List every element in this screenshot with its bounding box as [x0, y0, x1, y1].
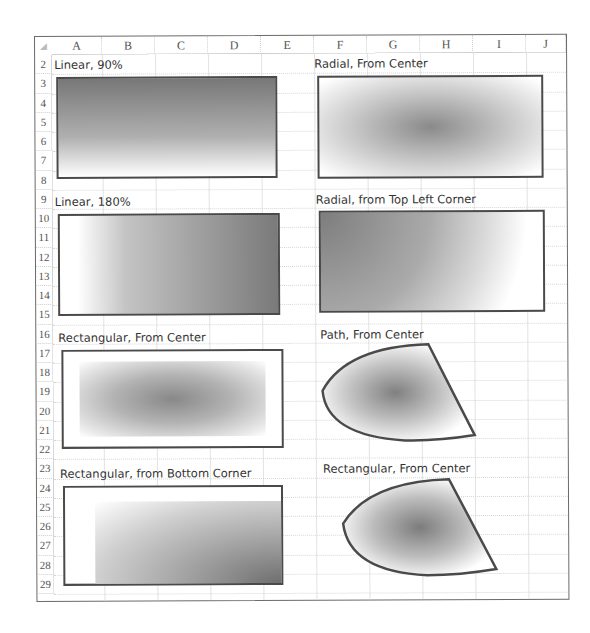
row-header[interactable]: 13 [36, 267, 53, 286]
gradient-fill [79, 361, 265, 437]
column-header-b[interactable]: B [102, 36, 155, 54]
row-header[interactable]: 19 [37, 382, 54, 401]
gridline [54, 457, 568, 460]
shape-radial-center[interactable] [317, 75, 543, 179]
row-header[interactable]: 2 [35, 55, 52, 74]
row-header[interactable]: 14 [36, 286, 53, 305]
row-header[interactable]: 5 [35, 113, 52, 132]
gradient-fill [95, 501, 281, 584]
spreadsheet: ◢ A B C D E F G H I J 234567891011121314… [34, 34, 569, 602]
row-header[interactable]: 22 [37, 440, 54, 459]
row-header[interactable]: 18 [36, 363, 53, 382]
column-header-h[interactable]: H [420, 35, 473, 53]
column-header-d[interactable]: D [208, 36, 261, 54]
shape-rectangular-bottom-corner[interactable] [63, 485, 283, 586]
column-header-a[interactable]: A [52, 37, 102, 55]
row-header[interactable]: 4 [35, 93, 52, 112]
row-header[interactable]: 15 [36, 305, 53, 324]
row-header[interactable]: 9 [36, 190, 53, 209]
shape-label: Radial, From Center [314, 56, 428, 70]
column-header-f[interactable]: F [314, 36, 367, 54]
row-header[interactable]: 8 [36, 170, 53, 189]
shape-path-from-center[interactable] [316, 340, 486, 451]
shape-rectangular-center[interactable] [61, 349, 283, 449]
row-header[interactable]: 16 [36, 324, 53, 343]
row-header[interactable]: 25 [37, 498, 54, 517]
column-header-j[interactable]: J [526, 35, 566, 53]
column-header-c[interactable]: C [155, 36, 208, 54]
shape-label: Rectangular, From Center [58, 330, 206, 345]
gridline [54, 592, 568, 595]
row-header[interactable]: 28 [37, 555, 54, 574]
row-header[interactable]: 29 [37, 575, 54, 594]
row-header[interactable]: 23 [37, 459, 54, 478]
row-header[interactable]: 26 [37, 517, 54, 536]
row-header[interactable]: 12 [36, 247, 53, 266]
row-header[interactable]: 3 [35, 74, 52, 93]
shape-linear-90[interactable] [56, 76, 277, 179]
shape-label: Linear, 90% [54, 58, 123, 72]
gridline [53, 322, 567, 325]
row-header[interactable]: 24 [37, 478, 54, 497]
row-header[interactable]: 20 [37, 401, 54, 420]
shape-label: Linear, 180% [55, 195, 131, 209]
select-all-corner[interactable]: ◢ [35, 37, 52, 55]
shape-label: Rectangular, From Center [323, 461, 471, 476]
shape-path-rectangular-center[interactable] [339, 475, 504, 586]
column-header-g[interactable]: G [367, 35, 420, 53]
row-header[interactable]: 21 [37, 421, 54, 440]
shape-linear-180[interactable] [58, 213, 280, 316]
column-header-e[interactable]: E [261, 36, 314, 54]
shape-label: Radial, from Top Left Corner [316, 192, 476, 207]
column-header-i[interactable]: I [473, 35, 526, 53]
row-header[interactable]: 11 [36, 228, 53, 247]
row-header[interactable]: 27 [37, 536, 54, 555]
row-header[interactable]: 6 [35, 132, 52, 151]
row-header[interactable]: 17 [36, 344, 53, 363]
row-header[interactable]: 10 [36, 209, 53, 228]
row-header[interactable]: 7 [36, 151, 53, 170]
shape-label: Rectangular, from Bottom Corner [60, 466, 252, 481]
gridline [53, 187, 567, 190]
shape-radial-top-left[interactable] [319, 210, 545, 313]
